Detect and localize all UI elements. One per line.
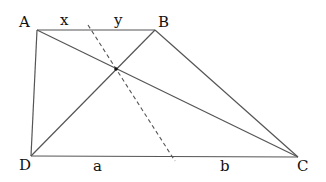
- diagram-svg: A B D C x y a b: [0, 0, 326, 182]
- diagonal-ac: [37, 30, 298, 157]
- side-cd: [31, 156, 298, 157]
- vertex-label-a: A: [18, 13, 30, 31]
- side-da: [31, 30, 37, 156]
- segment-label-x: x: [60, 11, 69, 29]
- side-bc: [155, 30, 298, 157]
- trapezoid-diagram: A B D C x y a b: [0, 0, 326, 182]
- diagonal-bd: [31, 30, 155, 156]
- intersection-point: [114, 67, 118, 71]
- vertex-label-b: B: [158, 13, 169, 31]
- segment-label-a: a: [93, 157, 102, 175]
- segment-label-b: b: [220, 157, 230, 175]
- vertex-label-c: C: [297, 157, 308, 175]
- segment-label-y: y: [113, 11, 123, 29]
- vertex-label-d: D: [19, 156, 31, 174]
- dashed-line: [88, 25, 175, 161]
